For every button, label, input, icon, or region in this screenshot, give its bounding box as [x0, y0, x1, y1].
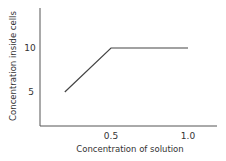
y-axis-label: Concentration inside cells — [8, 11, 18, 121]
chart: 10 5 0.5 1.0 Concentration of solution C… — [0, 0, 226, 161]
y-tick-10: 10 — [24, 43, 36, 53]
data-line — [65, 48, 188, 92]
x-tick-1-0: 1.0 — [181, 131, 196, 141]
x-axis-label: Concentration of solution — [76, 144, 183, 154]
y-tick-5: 5 — [28, 87, 34, 97]
x-tick-0-5: 0.5 — [104, 131, 118, 141]
